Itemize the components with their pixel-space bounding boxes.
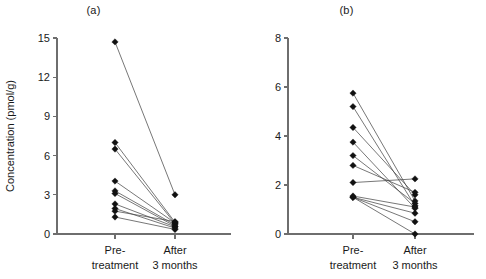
panel-a-plot: 03691215Pre-treatmentAfter3 monthsConcen…: [0, 0, 243, 279]
subject-connector-line: [115, 143, 175, 223]
data-point-marker: [350, 179, 356, 185]
y-tick-label: 0: [275, 228, 281, 240]
subject-connector-line: [353, 197, 415, 222]
y-tick-label: 3: [44, 189, 50, 201]
y-tick-label: 6: [44, 150, 50, 162]
data-point-marker: [112, 39, 118, 45]
y-tick-label: 15: [38, 32, 50, 44]
y-tick-label: 4: [275, 130, 281, 142]
data-point-marker: [412, 219, 418, 225]
y-tick-label: 0: [44, 228, 50, 240]
data-point-marker: [412, 176, 418, 182]
data-point-marker: [350, 90, 356, 96]
x-category-label: After: [163, 244, 187, 256]
y-tick-label: 12: [38, 71, 50, 83]
figure-canvas: (a) 03691215Pre-treatmentAfter3 monthsCo…: [0, 0, 486, 279]
data-point-marker: [112, 214, 118, 220]
data-point-marker: [112, 139, 118, 145]
y-tick-label: 2: [275, 179, 281, 191]
data-point-marker: [172, 192, 178, 198]
data-point-marker: [412, 231, 418, 237]
x-category-label: After: [403, 244, 427, 256]
panel-b-plot: 02468Pre-treatmentAfter3 months: [243, 0, 486, 279]
data-point-marker: [350, 162, 356, 168]
y-tick-label: 8: [275, 32, 281, 44]
data-point-marker: [350, 103, 356, 109]
panel-b: (b) 02468Pre-treatmentAfter3 months: [243, 0, 486, 279]
y-tick-label: 9: [44, 110, 50, 122]
data-point-marker: [412, 210, 418, 216]
subject-connector-line: [353, 142, 415, 208]
data-point-marker: [350, 152, 356, 158]
x-category-label: 3 months: [392, 259, 438, 271]
subject-connector-line: [115, 209, 175, 229]
panel-a: (a) 03691215Pre-treatmentAfter3 monthsCo…: [0, 0, 243, 279]
x-category-label: treatment: [330, 259, 376, 271]
x-category-label: Pre-: [343, 244, 364, 256]
subject-connector-line: [353, 165, 415, 192]
subject-connector-line: [353, 197, 415, 234]
x-category-label: 3 months: [152, 259, 198, 271]
subject-connector-line: [353, 107, 415, 206]
subject-connector-line: [353, 127, 415, 194]
subject-connector-line: [115, 42, 175, 195]
data-point-marker: [112, 178, 118, 184]
y-axis-title: Concentration (pmol/g): [4, 80, 16, 192]
x-category-label: Pre-: [105, 244, 126, 256]
x-category-label: treatment: [92, 259, 138, 271]
y-tick-label: 6: [275, 81, 281, 93]
